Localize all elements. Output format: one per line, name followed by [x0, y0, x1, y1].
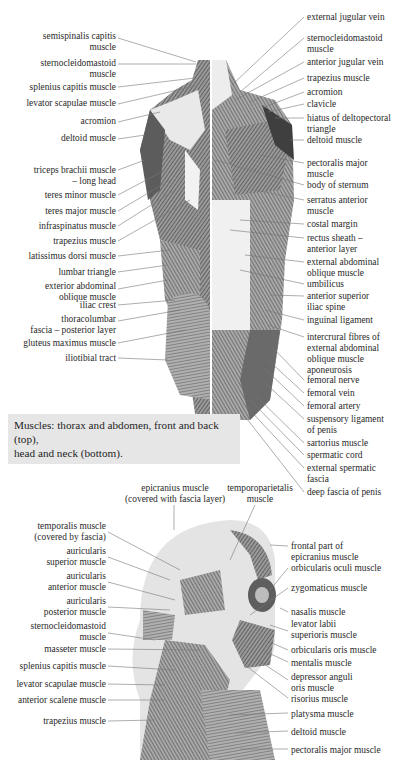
label-external-spermatic-fascia: external spermaticfascia — [307, 463, 376, 485]
label-line: muscle — [79, 632, 106, 642]
label-semispinalis-capitis: semispinalis capitismuscle — [43, 31, 116, 53]
label-trapezius-back: trapezius muscle — [53, 236, 116, 247]
label-line: oblique muscle — [307, 268, 364, 278]
label-line: posterior muscle — [44, 607, 106, 617]
label-deltoid-head: deltoid muscle — [291, 727, 346, 738]
label-line: – long head — [72, 176, 116, 186]
label-infraspinatus: infraspinatus muscle — [39, 221, 116, 232]
label-line: pectoralis major — [307, 158, 368, 168]
label-rectus-sheath: rectus sheath –anterior layer — [307, 233, 363, 255]
label-spermatic-cord: spermatic cord — [307, 450, 362, 461]
label-line: fascia — [307, 474, 329, 484]
label-line: sternocleidomastoid — [40, 58, 116, 68]
label-line: levator labii — [291, 619, 336, 629]
label-levator-scapulae: levator scapulae muscle — [26, 98, 116, 109]
label-line: anterior superior — [307, 291, 369, 301]
label-suspensory-ligament: suspensory ligamentof penis — [307, 414, 384, 436]
label-line: semispinalis capitis — [43, 31, 116, 41]
label-line: sternocleidomastoid — [307, 33, 383, 43]
label-auricularis-superior: auricularissuperior muscle — [46, 546, 106, 568]
label-line: iliac spine — [307, 302, 345, 312]
label-line: muscle — [307, 44, 334, 54]
label-line: external spermatic — [307, 463, 376, 473]
label-femoral-vein: femoral vein — [307, 388, 355, 399]
label-line: auricularis — [66, 546, 106, 556]
label-sartorius: sartorius muscle — [307, 438, 368, 449]
label-acromion-back: acromion — [81, 116, 116, 127]
label-mentalis: mentalis muscle — [291, 658, 352, 669]
label-line: anterior muscle — [48, 582, 106, 592]
label-lumbar-triangle: lumbar triangle — [58, 267, 116, 278]
label-body-of-sternum: body of sternum — [307, 180, 368, 191]
label-line: auricularis — [66, 596, 106, 606]
label-serratus-anterior: serratus anteriormuscle — [307, 195, 368, 217]
label-line: superioris muscle — [291, 630, 357, 640]
label-gluteus-maximus: gluteus maximus muscle — [23, 338, 116, 349]
label-levator-labii-superioris: levator labiisuperioris muscle — [291, 619, 357, 641]
label-line: temporoparietalis — [227, 483, 293, 493]
label-line: muscle — [307, 169, 334, 179]
label-teres-minor: teres minor muscle — [45, 190, 116, 201]
label-line: thoracolumbar — [61, 314, 116, 324]
label-line: oblique muscle — [307, 354, 364, 364]
caption-line-2: head and neck (bottom). — [14, 447, 123, 459]
label-deltoid-front: deltoid muscle — [307, 135, 362, 146]
label-temporoparietalis: temporoparietalismuscle — [220, 483, 300, 505]
label-line: rectus sheath – — [307, 233, 363, 243]
label-line: epicranius muscle — [141, 483, 208, 493]
label-line: external abdominal — [307, 257, 379, 267]
label-line: intercrural fibres of — [307, 332, 380, 342]
label-line: depressor anguli — [291, 672, 353, 682]
label-temporalis: temporalis muscle(covered by fascia) — [34, 521, 106, 543]
label-splenius-capitis-head: splenius capitis muscle — [20, 661, 106, 672]
label-line: (covered with fascia layer) — [125, 494, 225, 504]
label-line: sternocleidomastoid — [30, 621, 106, 631]
label-thoracolumbar-fascia: thoracolumbarfascia – posterior layer — [30, 314, 116, 336]
label-splenius-capitis: splenius capitis muscle — [30, 82, 116, 93]
label-line: superior muscle — [46, 557, 106, 567]
label-zygomaticus: zygomaticus muscle — [291, 583, 367, 594]
label-hiatus-deltopectoral: hiatus of deltopectoraltriangle — [307, 113, 391, 135]
label-acromion-front: acromion — [307, 87, 342, 98]
label-line: triangle — [307, 124, 336, 134]
label-sternocleidomastoid-back: sternocleidomastoidmuscle — [40, 58, 116, 80]
caption-line-1: Muscles: thorax and abdomen, front and b… — [14, 419, 219, 445]
label-iliotibial-tract: iliotibial tract — [65, 353, 116, 364]
label-line: triceps brachii muscle — [34, 165, 116, 175]
label-anterior-superior-iliac-spine: anterior superioriliac spine — [307, 291, 369, 313]
label-pectoralis-major: pectoralis majormuscle — [307, 158, 368, 180]
label-trapezius-head: trapezius muscle — [43, 716, 106, 727]
label-frontal-epicranius: frontal part ofepicranius muscle — [291, 541, 358, 563]
label-pectoralis-major-head: pectoralis major muscle — [291, 745, 381, 756]
figure-caption: Muscles: thorax and abdomen, front and b… — [8, 414, 240, 464]
label-line: muscle — [89, 69, 116, 79]
label-line: anterior layer — [307, 244, 357, 254]
label-sternocleidomastoid-head: sternocleidomastoidmuscle — [30, 621, 106, 643]
label-intercrural-fibres: intercrural fibres ofexternal abdominalo… — [307, 332, 380, 376]
label-line: temporalis muscle — [38, 521, 106, 531]
label-line: external abdominal — [307, 343, 379, 353]
label-deltoid-back: deltoid muscle — [61, 133, 116, 144]
label-femoral-artery: femoral artery — [307, 401, 360, 412]
label-line: auricularis — [66, 571, 106, 581]
label-masseter: masseter muscle — [44, 644, 106, 655]
torso-front-figure — [212, 60, 294, 420]
label-umbilicus: umbilicus — [307, 279, 344, 290]
label-line: aponeurosis — [307, 365, 352, 375]
label-triceps-brachii: triceps brachii muscle– long head — [34, 165, 116, 187]
label-orbicularis-oris: orbicularis oris muscle — [291, 645, 376, 656]
label-costal-margin: costal margin — [307, 219, 358, 230]
label-line: suspensory ligament — [307, 414, 384, 424]
label-anterior-jugular-vein: anterior jugular vein — [307, 57, 384, 68]
label-line: hiatus of deltopectoral — [307, 113, 391, 123]
label-iliac-crest: iliac crest — [80, 300, 116, 311]
label-line: muscle — [307, 206, 334, 216]
label-epicranius: epicranius muscle(covered with fascia la… — [125, 483, 225, 505]
label-auricularis-posterior: auricularisposterior muscle — [44, 596, 106, 618]
label-auricularis-anterior: auricularisanterior muscle — [48, 571, 106, 593]
label-line: frontal part of — [291, 541, 343, 551]
label-nasalis: nasalis muscle — [291, 607, 345, 618]
label-levator-scapulae-head: levator scapulae muscle — [16, 679, 106, 690]
label-line: muscle — [89, 42, 116, 52]
label-line: oris muscle — [291, 683, 334, 693]
